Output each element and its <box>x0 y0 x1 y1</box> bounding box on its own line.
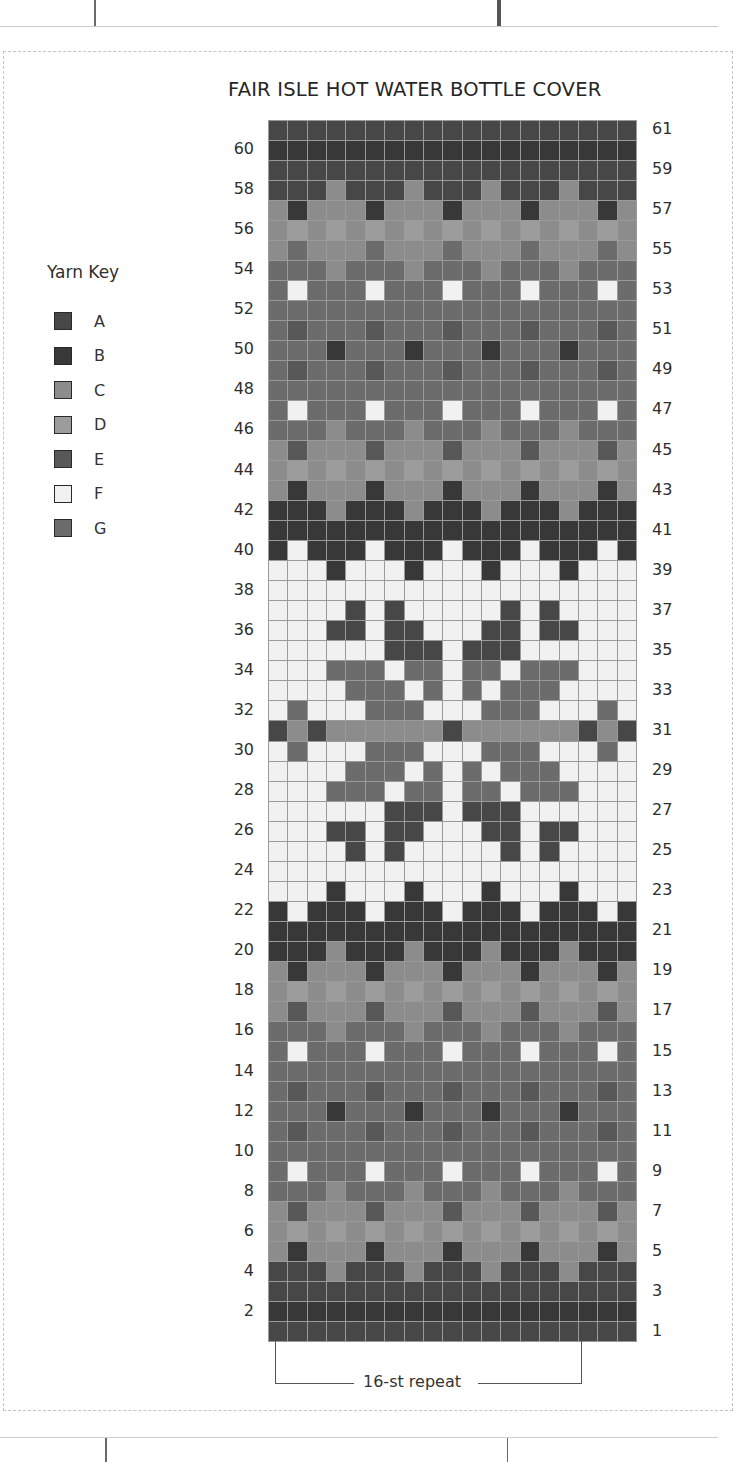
chart-cell <box>366 581 384 600</box>
yarn-key-item-a: A <box>54 311 72 331</box>
chart-cell <box>501 942 519 961</box>
chart-cell <box>308 1102 326 1121</box>
row-number: 48 <box>208 379 254 398</box>
chart-cell <box>521 621 539 640</box>
chart-cell <box>346 121 364 140</box>
chart-cell <box>424 601 442 620</box>
chart-cell <box>405 321 423 340</box>
chart-cell <box>443 441 461 460</box>
chart-cell <box>463 381 481 400</box>
chart-cell <box>405 742 423 761</box>
chart-cell <box>501 902 519 921</box>
chart-cell <box>405 822 423 841</box>
chart-cell <box>269 1142 287 1161</box>
row-number: 33 <box>652 680 672 699</box>
chart-cell <box>463 361 481 380</box>
chart-cell <box>521 321 539 340</box>
chart-cell <box>482 1042 500 1061</box>
chart-cell <box>346 161 364 180</box>
chart-cell <box>269 141 287 160</box>
chart-cell <box>598 882 616 901</box>
chart-cell <box>560 1082 578 1101</box>
chart-cell <box>618 1162 636 1181</box>
chart-cell <box>327 822 345 841</box>
chart-cell <box>618 1042 636 1061</box>
chart-cell <box>579 121 597 140</box>
chart-cell <box>443 1062 461 1081</box>
chart-cell <box>579 1062 597 1081</box>
row-number: 22 <box>208 900 254 919</box>
chart-cell <box>269 882 287 901</box>
chart-cell <box>540 221 558 240</box>
chart-cell <box>269 922 287 941</box>
chart-cell <box>560 1162 578 1181</box>
chart-cell <box>501 1122 519 1141</box>
chart-cell <box>463 1242 481 1261</box>
chart-cell <box>560 341 578 360</box>
chart-cell <box>269 521 287 540</box>
chart-cell <box>443 782 461 801</box>
chart-cell <box>540 1062 558 1081</box>
yarn-key-item-g: G <box>54 518 72 538</box>
chart-cell <box>540 922 558 941</box>
chart-cell <box>540 181 558 200</box>
chart-cell <box>366 1082 384 1101</box>
chart-cell <box>385 681 403 700</box>
chart-cell <box>385 281 403 300</box>
chart-cell <box>366 1062 384 1081</box>
chart-cell <box>618 721 636 740</box>
chart-cell <box>540 942 558 961</box>
chart-cell <box>366 661 384 680</box>
chart-cell <box>405 1282 423 1301</box>
chart-cell <box>540 261 558 280</box>
chart-cell <box>598 1042 616 1061</box>
chart-cell <box>618 221 636 240</box>
chart-cell <box>269 641 287 660</box>
chart-cell <box>308 1002 326 1021</box>
chart-cell <box>482 902 500 921</box>
chart-cell <box>618 341 636 360</box>
chart-cell <box>385 381 403 400</box>
chart-cell <box>385 561 403 580</box>
chart-cell <box>579 321 597 340</box>
yarn-swatch <box>54 381 72 399</box>
chart-cell <box>443 1302 461 1321</box>
chart-cell <box>618 942 636 961</box>
chart-cell <box>540 762 558 781</box>
chart-cell <box>346 1242 364 1261</box>
chart-cell <box>288 501 306 520</box>
chart-cell <box>269 441 287 460</box>
row-number: 38 <box>208 580 254 599</box>
chart-cell <box>385 1002 403 1021</box>
chart-cell <box>269 661 287 680</box>
chart-cell <box>501 301 519 320</box>
chart-cell <box>288 1022 306 1041</box>
chart-cell <box>560 461 578 480</box>
chart-cell <box>540 1222 558 1241</box>
chart-cell <box>269 1182 287 1201</box>
chart-cell <box>405 1142 423 1161</box>
chart-cell <box>327 842 345 861</box>
chart-cell <box>346 822 364 841</box>
chart-cell <box>598 241 616 260</box>
chart-cell <box>385 701 403 720</box>
chart-cell <box>424 621 442 640</box>
chart-cell <box>501 541 519 560</box>
chart-cell <box>288 1202 306 1221</box>
chart-cell <box>327 902 345 921</box>
chart-cell <box>443 1202 461 1221</box>
chart-cell <box>424 1082 442 1101</box>
row-number: 43 <box>652 480 672 499</box>
chart-cell <box>463 241 481 260</box>
chart-cell <box>482 1002 500 1021</box>
chart-cell <box>501 982 519 1001</box>
chart-cell <box>424 902 442 921</box>
chart-cell <box>366 982 384 1001</box>
chart-cell <box>405 982 423 1001</box>
chart-cell <box>405 1302 423 1321</box>
chart-cell <box>288 541 306 560</box>
chart-cell <box>560 381 578 400</box>
chart-cell <box>308 561 326 580</box>
chart-cell <box>598 301 616 320</box>
chart-cell <box>346 381 364 400</box>
